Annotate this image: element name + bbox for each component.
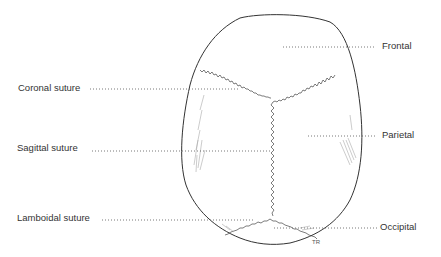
- skull-diagram: TR Frontal Coronal suture Parietal Sagit…: [0, 0, 441, 257]
- coronal-suture-left: [200, 70, 271, 98]
- leader-lines: [90, 47, 378, 228]
- sagittal-suture: [271, 102, 274, 216]
- label-sagittal-suture: Sagittal suture: [17, 143, 78, 153]
- label-lamboidal-suture: Lamboidal suture: [17, 213, 90, 223]
- parietal-shading-right: [340, 115, 356, 165]
- parietal-shading-left: [194, 95, 205, 172]
- coronal-suture-right: [273, 75, 335, 102]
- label-frontal: Frontal: [382, 41, 412, 51]
- label-coronal-suture: Coronal suture: [18, 83, 80, 93]
- label-occipital: Occipital: [380, 222, 416, 232]
- artist-signature: TR: [312, 239, 321, 245]
- label-parietal: Parietal: [382, 130, 414, 140]
- lambdoid-suture-left: [225, 219, 270, 235]
